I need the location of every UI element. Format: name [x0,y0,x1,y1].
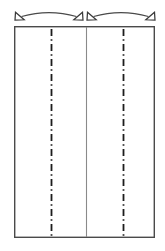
left-fold-arrow-arc [22,13,77,17]
diagram-vector-surface [0,0,165,251]
main-rectangle [15,27,155,238]
diagram-canvas [0,0,165,251]
right-fold-arrow-arc [94,13,149,17]
